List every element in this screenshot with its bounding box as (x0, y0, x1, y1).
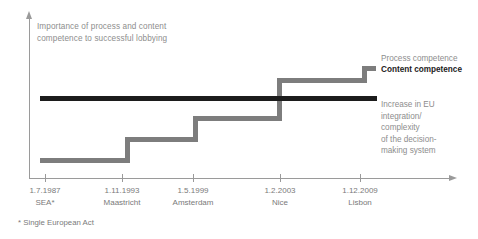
process-competence-step-2 (125, 137, 198, 142)
x-axis-label-nice: 1.2.2003 Nice (237, 185, 323, 208)
annotation-line-3: complexity (381, 123, 420, 132)
x-axis-label-date: 1.2.2003 (237, 185, 323, 197)
arrow-right-icon (449, 175, 457, 181)
x-axis-tick (122, 174, 123, 182)
process-competence-step-5 (362, 66, 376, 71)
x-axis-tick (280, 174, 281, 182)
chart-annotation: Increase in EU integration/ complexity o… (381, 99, 473, 157)
x-axis-line (29, 178, 450, 179)
annotation-line-1: Increase in EU (381, 100, 435, 109)
x-axis-label-event: Amsterdam (150, 197, 236, 209)
chart-footnote: * Single European Act (18, 218, 94, 227)
process-competence-step-1 (40, 158, 130, 163)
legend-item-process: Process competence (381, 53, 462, 64)
arrow-up-icon (26, 11, 32, 19)
x-axis-tick (45, 174, 46, 182)
chart-legend: Process competence Content competence (381, 53, 462, 75)
annotation-line-5: making system (381, 146, 436, 155)
x-axis-label-sea: 1.7.1987 SEA* (2, 185, 88, 208)
legend-item-content: Content competence (381, 64, 462, 75)
x-axis-label-event: Nice (237, 197, 323, 209)
x-axis-label-event: SEA* (2, 197, 88, 209)
chart-title-line-1: Importance of process and content (37, 22, 166, 31)
annotation-line-4: of the decision- (381, 135, 437, 144)
x-axis-label-date: 1.12.2009 (317, 185, 403, 197)
content-competence-line (40, 96, 377, 101)
x-axis-label-amsterdam: 1.5.1999 Amsterdam (150, 185, 236, 208)
chart-title: Importance of process and content compet… (37, 21, 252, 44)
chart-container: Importance of process and content compet… (0, 0, 478, 239)
x-axis-label-lisbon: 1.12.2009 Lisbon (317, 185, 403, 208)
annotation-line-2: integration/ (381, 112, 422, 121)
x-axis-tick (193, 174, 194, 182)
x-axis-label-date: 1.5.1999 (150, 185, 236, 197)
x-axis-tick (360, 174, 361, 182)
process-competence-step-4 (277, 78, 367, 83)
chart-title-line-2: competence to successful lobbying (37, 34, 167, 43)
x-axis-label-event: Lisbon (317, 197, 403, 209)
process-competence-step-3 (193, 116, 282, 121)
x-axis-label-date: 1.7.1987 (2, 185, 88, 197)
y-axis-line (29, 18, 30, 178)
